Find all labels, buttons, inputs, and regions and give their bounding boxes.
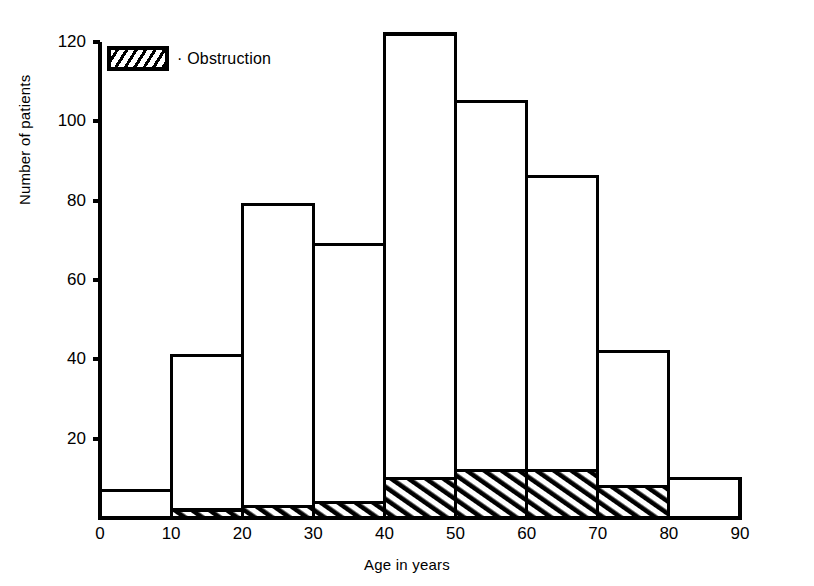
bar-total (669, 478, 740, 518)
bar-total (242, 205, 313, 518)
y-tick-label: 80 (44, 191, 86, 211)
bar-obstruction (598, 486, 669, 518)
x-tick-label: 0 (80, 524, 120, 544)
y-tick-label: 40 (44, 349, 86, 369)
bar-total (527, 177, 598, 518)
y-tick-label: 60 (44, 270, 86, 290)
y-tick-label: 20 (44, 429, 86, 449)
x-tick-label: 90 (720, 524, 760, 544)
x-tick-label: 20 (222, 524, 262, 544)
x-tick-label: 60 (507, 524, 547, 544)
y-tick-label: 120 (44, 32, 86, 52)
plot-area (0, 0, 814, 586)
x-tick-label: 30 (293, 524, 333, 544)
bar-total (313, 244, 384, 518)
y-tick-label: 100 (44, 111, 86, 131)
bar-total (384, 34, 455, 518)
x-tick-label: 80 (649, 524, 689, 544)
bar-total (171, 355, 242, 518)
x-tick-label: 40 (364, 524, 404, 544)
x-tick-label: 50 (436, 524, 476, 544)
bar-total (456, 102, 527, 519)
bar-total (100, 490, 171, 518)
bar-obstruction (527, 470, 598, 518)
bar-obstruction (456, 470, 527, 518)
histogram-chart: Number of patients Age in years · Obstru… (0, 0, 814, 586)
bar-obstruction (384, 478, 455, 518)
x-tick-label: 70 (578, 524, 618, 544)
x-tick-label: 10 (151, 524, 191, 544)
bars-group (100, 34, 740, 518)
bar-obstruction (313, 502, 384, 518)
